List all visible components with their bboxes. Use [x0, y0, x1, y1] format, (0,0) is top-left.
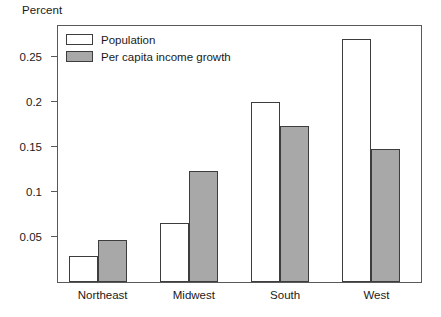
bar-northeast-population [69, 256, 98, 282]
legend-label-income: Per capita income growth [101, 51, 231, 63]
x-axis-label-northeast: Northeast [78, 289, 128, 301]
bar-northeast-income [98, 240, 127, 282]
y-axis-tick: 0.15 [51, 146, 58, 147]
bar-south-population [251, 102, 280, 282]
y-axis-tick-label: 0.05 [20, 231, 42, 243]
x-axis-label-south: South [270, 289, 300, 301]
bar-west-population [342, 39, 371, 282]
legend-swatch-income-icon [66, 51, 93, 62]
y-axis-tick: 0.1 [51, 191, 58, 192]
bar-west-income [371, 149, 400, 282]
chart-legend: Population Per capita income growth [66, 32, 231, 66]
legend-swatch-population-icon [66, 34, 93, 45]
y-axis-tick: 0.25 [51, 56, 58, 57]
legend-label-population: Population [101, 34, 155, 46]
y-axis-title: Percent [22, 4, 62, 16]
x-axis-label-west: West [363, 289, 389, 301]
legend-item-income: Per capita income growth [66, 49, 231, 64]
legend-item-population: Population [66, 32, 231, 47]
y-axis-tick-label: 0.15 [20, 141, 42, 153]
bar-midwest-income [189, 171, 218, 282]
y-axis-tick: 0.2 [51, 101, 58, 102]
bar-chart: Percent 0.050.10.150.20.25 Population Pe… [0, 0, 441, 317]
bar-midwest-population [160, 223, 189, 282]
y-axis-tick-label: 0.25 [20, 51, 42, 63]
bar-south-income [280, 126, 309, 282]
y-axis-tick-label: 0.2 [26, 96, 42, 108]
y-axis-tick: 0.05 [51, 236, 58, 237]
x-axis-label-midwest: Midwest [173, 289, 215, 301]
y-axis-tick-label: 0.1 [26, 186, 42, 198]
